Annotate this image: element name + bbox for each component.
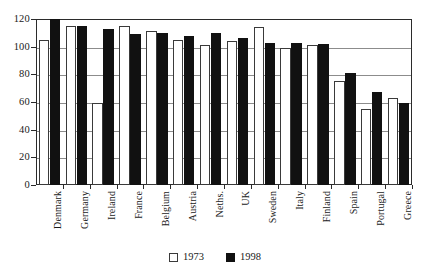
bar-group [385, 19, 412, 185]
bar-spain-1973 [334, 81, 345, 185]
y-tick-label: 0 [0, 180, 30, 190]
bar-neths-1973 [200, 45, 211, 185]
bar-group [305, 19, 332, 185]
x-tick-mark [305, 185, 306, 189]
x-tick-mark [358, 185, 359, 189]
x-tick-mark [63, 185, 64, 189]
x-label-belgium: Belgium [161, 191, 171, 226]
bar-group [278, 19, 305, 185]
bar-group [117, 19, 144, 185]
bar-germany-1998 [77, 26, 88, 185]
bar-group [358, 19, 385, 185]
bar-chart: 020406080100120 DenmarkGermanyIrelandFra… [0, 0, 430, 274]
bar-group [63, 19, 90, 185]
x-label-germany: Germany [80, 191, 90, 229]
bar-neths-1998 [211, 33, 222, 185]
bar-austria-1998 [184, 36, 195, 185]
bar-denmark-1998 [50, 19, 61, 185]
y-tick-label: 120 [0, 14, 30, 24]
bar-group [36, 19, 63, 185]
x-label-spain: Spain [349, 191, 359, 214]
x-label-ireland: Ireland [107, 191, 117, 220]
y-tick-label: 40 [0, 125, 30, 135]
x-tick-mark [197, 185, 198, 189]
x-tick-mark [385, 185, 386, 189]
bar-denmark-1973 [39, 40, 50, 185]
y-tick-mark [31, 185, 36, 186]
x-tick-mark [90, 185, 91, 189]
x-label-portugal: Portugal [376, 191, 386, 226]
bar-finland-1973 [307, 45, 318, 185]
x-label-sweden: Sweden [268, 191, 278, 223]
bar-ireland-1998 [103, 29, 114, 185]
bar-italy-1998 [291, 43, 302, 185]
legend-item-1998[interactable]: 1998 [226, 252, 261, 262]
x-tick-mark [331, 185, 332, 189]
x-label-austria: Austria [188, 191, 198, 221]
bar-portugal-1973 [361, 109, 372, 185]
x-label-italy: Italy [295, 191, 305, 210]
x-tick-mark [170, 185, 171, 189]
bar-belgium-1973 [146, 31, 157, 185]
legend-swatch-icon [169, 253, 178, 262]
x-label-finland: Finland [322, 191, 332, 222]
bar-group [251, 19, 278, 185]
x-label-france: France [134, 191, 144, 219]
x-tick-mark [143, 185, 144, 189]
bar-group [90, 19, 117, 185]
bar-portugal-1998 [372, 92, 383, 185]
bar-spain-1998 [345, 73, 356, 185]
bar-france-1998 [130, 34, 141, 185]
bar-group [170, 19, 197, 185]
x-label-uk: UK [241, 191, 251, 206]
legend-label: 1973 [183, 252, 204, 262]
bar-greece-1973 [388, 98, 399, 185]
x-label-denmark: Denmark [53, 191, 63, 229]
x-label-neths: Neths. [215, 191, 225, 217]
bar-greece-1998 [399, 103, 410, 185]
bar-sweden-1973 [254, 27, 265, 185]
bar-uk-1973 [227, 41, 238, 185]
bar-germany-1973 [66, 26, 77, 185]
chart-legend: 19731998 [0, 252, 430, 262]
bar-italy-1973 [280, 48, 291, 185]
bar-group [143, 19, 170, 185]
bars-layer [36, 19, 412, 185]
x-label-greece: Greece [403, 191, 413, 220]
bar-group [224, 19, 251, 185]
bar-group [197, 19, 224, 185]
y-tick-label: 100 [0, 42, 30, 52]
bar-france-1973 [119, 26, 130, 185]
bar-ireland-1973 [92, 103, 103, 185]
bar-austria-1973 [173, 40, 184, 185]
y-tick-label: 20 [0, 152, 30, 162]
x-tick-mark [251, 185, 252, 189]
legend-label: 1998 [240, 252, 261, 262]
bar-belgium-1998 [157, 33, 168, 185]
y-tick-label: 60 [0, 97, 30, 107]
x-tick-mark [412, 185, 413, 189]
y-tick-label: 80 [0, 69, 30, 79]
legend-item-1973[interactable]: 1973 [169, 252, 204, 262]
bar-finland-1998 [318, 44, 329, 185]
bar-uk-1998 [238, 38, 249, 185]
bar-group [331, 19, 358, 185]
x-tick-mark [224, 185, 225, 189]
legend-swatch-icon [226, 253, 235, 262]
x-tick-mark [278, 185, 279, 189]
x-tick-mark [117, 185, 118, 189]
bar-sweden-1998 [265, 43, 276, 185]
